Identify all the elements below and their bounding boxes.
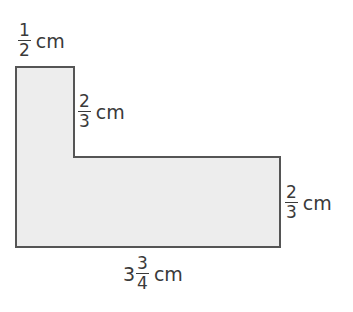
- denominator: 2: [19, 41, 30, 59]
- denominator: 3: [286, 203, 297, 221]
- unit: cm: [154, 263, 183, 285]
- denominator: 4: [137, 274, 148, 292]
- denominator: 3: [79, 112, 90, 130]
- numerator: 1: [18, 22, 31, 41]
- right-height-label: 2 3 cm: [285, 184, 332, 221]
- top-width-label: 1 2 cm: [18, 22, 65, 59]
- fraction: 2 3: [285, 184, 298, 221]
- whole-number: 3: [123, 263, 135, 285]
- l-shape-polygon: [16, 67, 280, 247]
- fraction: 3 4: [136, 255, 149, 292]
- inner-height-label: 2 3 cm: [78, 93, 125, 130]
- bottom-length-label: 3 3 4 cm: [123, 255, 183, 292]
- numerator: 2: [78, 93, 91, 112]
- unit: cm: [96, 101, 125, 123]
- fraction: 1 2: [18, 22, 31, 59]
- unit: cm: [36, 30, 65, 52]
- fraction: 2 3: [78, 93, 91, 130]
- numerator: 2: [285, 184, 298, 203]
- unit: cm: [303, 192, 332, 214]
- numerator: 3: [136, 255, 149, 274]
